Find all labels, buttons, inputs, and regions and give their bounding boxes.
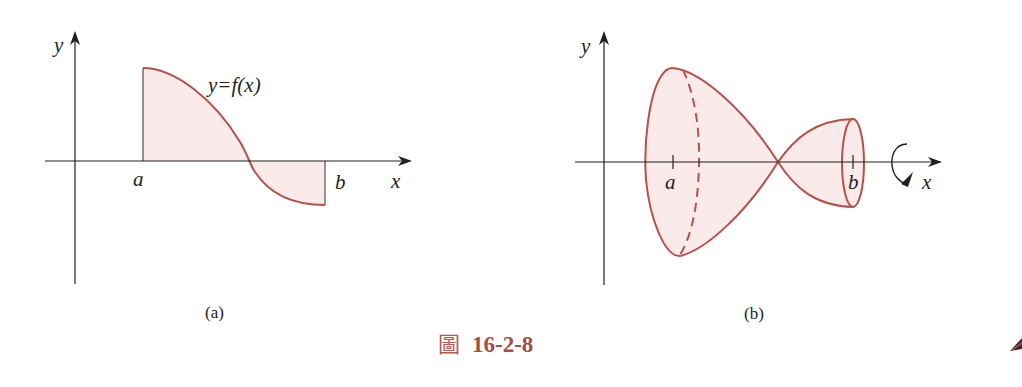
rotation-arrow-icon [892,144,913,187]
y-axis-label-b: y [581,36,590,57]
panel-a [45,33,410,284]
bound-label-a-b: a [665,172,676,193]
figure-caption-prefix: 圖 [438,334,460,356]
bound-label-b: b [335,172,346,193]
pen-icon [1010,338,1022,351]
sub-caption-b: (b) [744,305,764,322]
bound-label-a: a [133,169,144,190]
x-axis-label-b: x [922,172,931,193]
figure-caption: 圖 16-2-8 [438,333,533,356]
figure-16-2-8: y x a b y=f(x) (a) y x a b (b) 圖 16-2-8 [0,0,1022,387]
bound-label-b-b: b [848,172,859,193]
function-label: y=f(x) [208,75,261,96]
y-axis-label-a: y [54,35,63,56]
figure-caption-number: 16-2-8 [472,333,533,356]
sub-caption-a: (a) [205,304,224,321]
panel-b [575,33,940,285]
x-axis-label-a: x [391,171,400,192]
diagram-canvas [0,0,1022,387]
